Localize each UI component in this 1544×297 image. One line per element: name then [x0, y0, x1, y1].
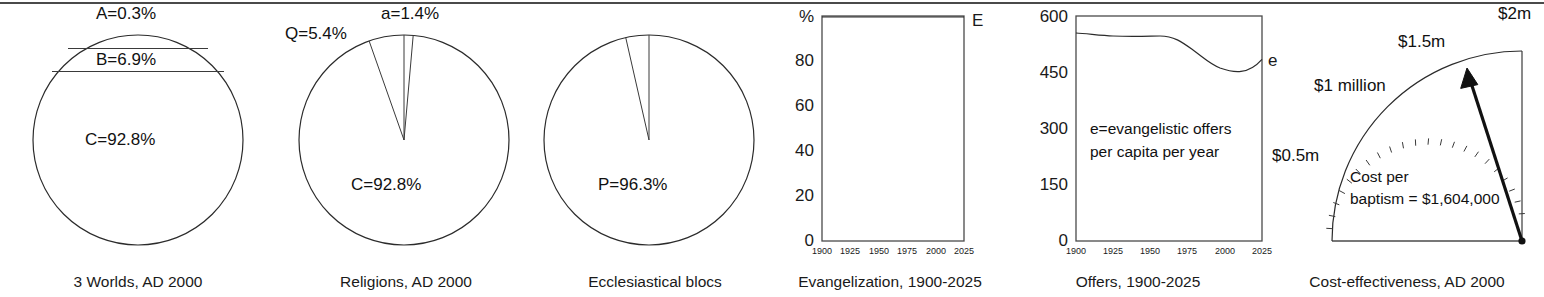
xtick-1975: 1975 [897, 246, 917, 256]
ytick-600: 600 [1040, 7, 1068, 26]
ytick-80: 80 [795, 51, 814, 70]
label-blocs-p: P=96.3% [598, 175, 667, 195]
offers-note-line1: e=evangelistic offers [1090, 120, 1231, 138]
slice-edge-a [404, 35, 413, 140]
three-worlds-diagram [0, 0, 276, 250]
xtick-1950: 1950 [869, 246, 889, 256]
caption-cost-effectiveness: Cost-effectiveness, AD 2000 [1270, 273, 1544, 291]
gauge-needle [1470, 81, 1522, 242]
label-world-c: C=92.8% [85, 130, 155, 150]
caption-offers: Offers, 1900-2025 [1006, 273, 1270, 291]
label-religions-c: C=92.8% [351, 175, 421, 195]
figure-board: A=0.3% B=6.9% C=92.8% 3 Worlds, AD 2000 … [0, 0, 1544, 297]
ytick-60: 60 [795, 96, 814, 115]
slice-edge-other [626, 37, 649, 140]
gauge-label-one-five: $1.5m [1398, 32, 1445, 52]
panel-religions: Q=5.4% a=1.4% C=92.8% Religions, AD 2000 [276, 0, 536, 297]
gauge-label-two: $2m [1498, 4, 1531, 24]
xtick-2000: 2000 [926, 246, 946, 256]
gauge-needle-arrowhead [1461, 68, 1478, 88]
caption-evangelization: Evangelization, 1900-2025 [774, 273, 1006, 291]
ytick-150: 150 [1040, 175, 1068, 194]
label-religions-q: Q=5.4% [285, 24, 347, 44]
ytick-300: 300 [1040, 119, 1068, 138]
xtick-1925: 1925 [840, 246, 860, 256]
gauge-label-half: $0.5m [1272, 146, 1319, 166]
panel-ecclesiastical-blocs: P=96.3% Ecclesiastical blocs [536, 0, 774, 297]
label-religions-a: a=1.4% [381, 4, 439, 24]
caption-ecclesiastical-blocs: Ecclesiastical blocs [536, 273, 774, 291]
xtick-1900: 1900 [1066, 246, 1086, 256]
xtick-1950: 1950 [1140, 246, 1160, 256]
xtick-1975: 1975 [1177, 246, 1197, 256]
label-world-b: B=6.9% [96, 50, 156, 70]
xtick-2000: 2000 [1215, 246, 1235, 256]
label-world-a: A=0.3% [96, 4, 156, 24]
ytick-20: 20 [795, 186, 814, 205]
panel-cost-effectiveness: $0.5m $1 million $1.5m $2m Cost per bapt… [1270, 0, 1544, 297]
caption-religions: Religions, AD 2000 [276, 273, 536, 291]
panel-offers: 600 450 300 150 0 1900 1925 1950 1975 20… [1006, 0, 1270, 297]
xtick-1900: 1900 [812, 246, 832, 256]
ytick-450: 450 [1040, 63, 1068, 82]
gauge-pivot-dot [1518, 237, 1525, 244]
ytick-40: 40 [795, 141, 814, 160]
series-line-e-approx [1076, 33, 1262, 72]
evangelization-plot: % 80 60 40 20 0 1900 1925 1950 1975 2000… [774, 0, 1006, 252]
gauge-label-one-million: $1 million [1314, 76, 1386, 96]
ytick-percent: % [799, 7, 814, 26]
gauge-note-line1: Cost per [1350, 168, 1409, 186]
xtick-2025: 2025 [954, 246, 974, 256]
panel-three-worlds: A=0.3% B=6.9% C=92.8% 3 Worlds, AD 2000 [0, 0, 276, 297]
caption-three-worlds: 3 Worlds, AD 2000 [0, 273, 276, 291]
blocs-pie [536, 0, 774, 250]
plot-frame [822, 16, 964, 241]
gauge-note-line2: baptism = $1,604,000 [1350, 190, 1500, 208]
series-label-E: E [972, 11, 983, 30]
xtick-2025: 2025 [1252, 246, 1272, 256]
offers-note-line2: per capita per year [1090, 143, 1219, 161]
slice-edge-q [369, 41, 404, 140]
xtick-1925: 1925 [1103, 246, 1123, 256]
panel-evangelization: % 80 60 40 20 0 1900 1925 1950 1975 2000… [774, 0, 1006, 297]
